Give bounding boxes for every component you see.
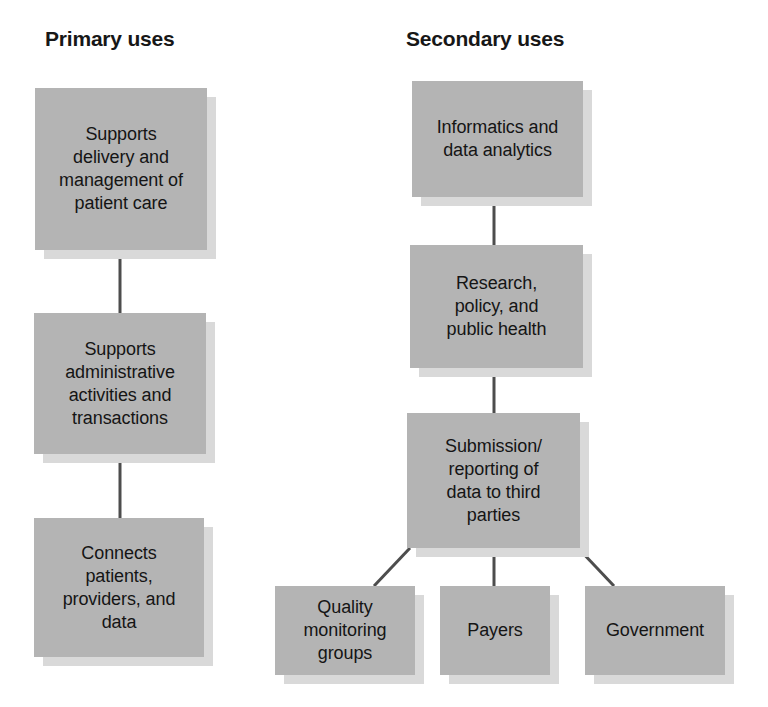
node-label: Quality monitoring groups [303, 596, 386, 665]
column-heading-primary: Primary uses [45, 28, 175, 49]
node-face: Research, policy, and public health [410, 245, 583, 368]
node-connects-patients-providers-and-data[interactable]: Connects patients, providers, and data [34, 518, 204, 657]
node-face: Quality monitoring groups [275, 586, 415, 675]
node-submission-reporting-of-data-to-third-parties[interactable]: Submission/ reporting of data to third p… [407, 413, 580, 548]
node-face: Submission/ reporting of data to third p… [407, 413, 580, 548]
connector-submission-to-quality [374, 548, 410, 586]
node-label: Payers [467, 619, 522, 642]
node-label: Supports delivery and management of pati… [59, 123, 183, 215]
diagram-canvas: Primary uses Secondary uses Supports del… [0, 0, 768, 707]
node-label: Submission/ reporting of data to third p… [445, 435, 542, 527]
node-supports-administrative-activities-and-transactions[interactable]: Supports administrative activities and t… [34, 313, 206, 454]
column-heading-secondary: Secondary uses [406, 28, 564, 49]
node-supports-delivery-and-management-of-patient-care[interactable]: Supports delivery and management of pati… [35, 88, 207, 250]
node-face: Supports administrative activities and t… [34, 313, 206, 454]
node-research-policy-and-public-health[interactable]: Research, policy, and public health [410, 245, 583, 368]
node-informatics-and-data-analytics[interactable]: Informatics and data analytics [412, 81, 583, 197]
node-government[interactable]: Government [585, 586, 725, 675]
node-face: Supports delivery and management of pati… [35, 88, 207, 250]
node-label: Informatics and data analytics [437, 116, 559, 162]
node-label: Government [606, 619, 704, 642]
node-face: Connects patients, providers, and data [34, 518, 204, 657]
node-face: Informatics and data analytics [412, 81, 583, 197]
node-payers[interactable]: Payers [440, 586, 550, 675]
node-face: Government [585, 586, 725, 675]
node-face: Payers [440, 586, 550, 675]
node-label: Research, policy, and public health [447, 272, 547, 341]
node-label: Connects patients, providers, and data [63, 542, 176, 634]
node-label: Supports administrative activities and t… [65, 338, 175, 430]
node-quality-monitoring-groups[interactable]: Quality monitoring groups [275, 586, 415, 675]
